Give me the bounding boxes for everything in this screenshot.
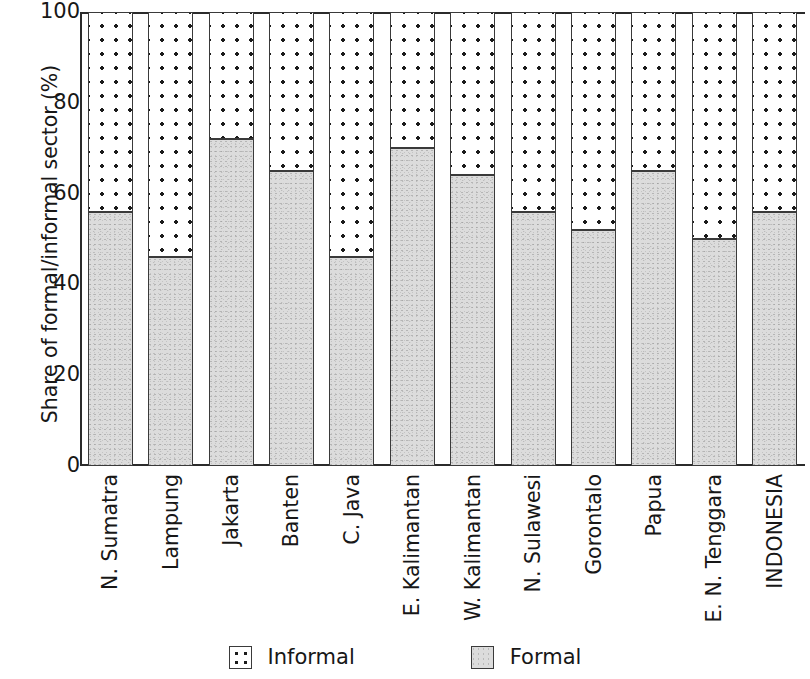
- x-axis-category-label: E. Kalimantan: [401, 474, 423, 616]
- bar-segment-formal[interactable]: [571, 230, 616, 466]
- x-axis-category-label: Banten: [280, 474, 302, 547]
- x-axis-category-label: INDONESIA: [764, 474, 786, 589]
- bar-segment-informal[interactable]: [148, 12, 193, 257]
- bar-segment-formal[interactable]: [450, 175, 495, 466]
- stacked-bar-chart: Share of formal/informal sector (%) 0204…: [0, 0, 810, 679]
- chart-legend: InformalFormal: [0, 640, 810, 674]
- bar-column[interactable]: [390, 12, 435, 466]
- bar-column[interactable]: [571, 12, 616, 466]
- legend-swatch-formal-icon: [471, 646, 494, 669]
- x-axis-category-label: N. Sumatra: [99, 474, 121, 590]
- y-tick-label: 80: [24, 92, 80, 113]
- bar-column[interactable]: [752, 12, 797, 466]
- bar-segment-informal[interactable]: [511, 12, 556, 212]
- bar-segment-formal[interactable]: [209, 139, 254, 466]
- x-axis-category: Gorontalo: [571, 466, 616, 636]
- bar-column[interactable]: [269, 12, 314, 466]
- bar-segment-informal[interactable]: [571, 12, 616, 230]
- bar-segment-informal[interactable]: [209, 12, 254, 139]
- x-axis-category-label: Jakarta: [220, 474, 242, 546]
- legend-item-informal[interactable]: Informal: [229, 645, 355, 669]
- y-tick-label: 20: [24, 364, 80, 385]
- bar-column[interactable]: [631, 12, 676, 466]
- bar-segment-informal[interactable]: [752, 12, 797, 212]
- x-axis-category-label: E. N. Tenggara: [703, 474, 725, 623]
- bar-segment-formal[interactable]: [148, 257, 193, 466]
- bar-column[interactable]: [88, 12, 133, 466]
- x-axis-labels: N. SumatraLampungJakartaBantenC. JavaE. …: [80, 466, 805, 636]
- y-tick-label: 0: [24, 455, 80, 476]
- x-axis-category: Banten: [269, 466, 314, 636]
- x-axis-category-label: Papua: [643, 474, 665, 537]
- bar-column[interactable]: [329, 12, 374, 466]
- y-axis-ticks: 020406080100: [0, 0, 80, 479]
- bars-layer: [80, 12, 805, 466]
- x-axis-category: Jakarta: [209, 466, 254, 636]
- bar-segment-informal[interactable]: [390, 12, 435, 148]
- bar-segment-informal[interactable]: [631, 12, 676, 171]
- x-axis-category-label: N. Sulawesi: [522, 474, 544, 592]
- y-tick-label: 40: [24, 273, 80, 294]
- x-axis-category: E. Kalimantan: [390, 466, 435, 636]
- bar-column[interactable]: [148, 12, 193, 466]
- bar-column[interactable]: [692, 12, 737, 466]
- x-axis-category: E. N. Tenggara: [692, 466, 737, 636]
- bar-segment-informal[interactable]: [450, 12, 495, 175]
- bar-segment-informal[interactable]: [329, 12, 374, 257]
- bar-segment-informal[interactable]: [269, 12, 314, 171]
- x-axis-category: C. Java: [329, 466, 374, 636]
- bar-column[interactable]: [511, 12, 556, 466]
- bar-segment-formal[interactable]: [692, 239, 737, 466]
- x-axis-category-label: Lampung: [160, 474, 182, 570]
- legend-item-formal[interactable]: Formal: [471, 645, 582, 669]
- bar-column[interactable]: [209, 12, 254, 466]
- y-tick-label: 100: [24, 1, 80, 22]
- x-axis-category: Lampung: [148, 466, 193, 636]
- legend-swatch-informal-icon: [229, 646, 252, 669]
- bar-segment-formal[interactable]: [631, 171, 676, 466]
- bar-segment-formal[interactable]: [511, 212, 556, 466]
- legend-label: Formal: [510, 645, 582, 669]
- y-tick-label: 60: [24, 183, 80, 204]
- bar-segment-formal[interactable]: [390, 148, 435, 466]
- x-axis-category-label: W. Kalimantan: [462, 474, 484, 621]
- bar-segment-formal[interactable]: [269, 171, 314, 466]
- bar-segment-informal[interactable]: [692, 12, 737, 239]
- bar-column[interactable]: [450, 12, 495, 466]
- x-axis-category: INDONESIA: [752, 466, 797, 636]
- x-axis-category: N. Sulawesi: [511, 466, 556, 636]
- x-axis-category-label: C. Java: [341, 474, 363, 545]
- x-axis-category-label: Gorontalo: [583, 474, 605, 575]
- x-axis-category: Papua: [631, 466, 676, 636]
- bar-segment-formal[interactable]: [752, 212, 797, 466]
- x-axis-category: W. Kalimantan: [450, 466, 495, 636]
- bar-segment-formal[interactable]: [88, 212, 133, 466]
- x-axis-category: N. Sumatra: [88, 466, 133, 636]
- bar-segment-formal[interactable]: [329, 257, 374, 466]
- bar-segment-informal[interactable]: [88, 12, 133, 212]
- legend-label: Informal: [268, 645, 355, 669]
